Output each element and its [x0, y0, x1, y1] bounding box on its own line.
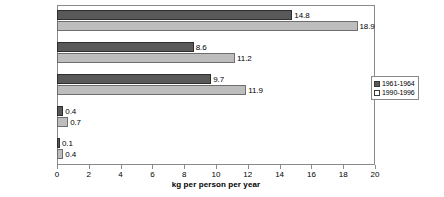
legend-label-series-0: 1961-1964: [382, 80, 415, 88]
x-tick-label: 18: [339, 170, 348, 179]
legend-item-series-0: 1961-1964: [374, 79, 415, 88]
bar-value-label: 8.6: [196, 43, 207, 52]
bar-group-series-1: 18.9: [57, 21, 375, 31]
bar-value-label: 9.7: [213, 75, 224, 84]
bar-chart: GREECE14.818.9SPAIN8.611.2ITALY9.711.9FR…: [0, 0, 444, 197]
x-tick-label: 10: [212, 170, 221, 179]
legend-label-series-1: 1990-1996: [382, 89, 415, 97]
bar-value-label: 11.9: [248, 86, 263, 95]
x-tick-label: 14: [275, 170, 284, 179]
x-tick-label: 12: [243, 170, 252, 179]
bar-value-label: 11.2: [237, 54, 252, 63]
category-row: USA0.10.4: [57, 133, 375, 165]
x-tick-mark: [152, 165, 153, 169]
x-tick-mark: [216, 165, 217, 169]
x-tick-mark: [121, 165, 122, 169]
bar: [57, 74, 211, 84]
x-tick-mark: [184, 165, 185, 169]
category-row: GREECE14.818.9: [57, 5, 375, 37]
bar-value-label: 0.1: [62, 139, 73, 148]
x-tick-mark: [343, 165, 344, 169]
bar: [57, 21, 358, 31]
bar-value-label: 18.9: [360, 22, 375, 31]
bar: [57, 138, 60, 148]
bar: [57, 117, 68, 127]
bar-group-series-0: 0.1: [57, 138, 73, 148]
x-tick-label: 20: [371, 170, 380, 179]
category-row: ITALY9.711.9: [57, 69, 375, 101]
legend-swatch-icon-series-1: [374, 90, 380, 96]
x-tick-label: 4: [118, 170, 122, 179]
bar-value-label: 0.4: [65, 150, 76, 159]
x-tick-mark: [89, 165, 90, 169]
x-axis: 02468101214161820: [57, 165, 375, 181]
bar-value-label: 0.7: [70, 118, 81, 127]
bar-value-label: 0.4: [65, 107, 76, 116]
bar: [57, 85, 246, 95]
x-tick-label: 6: [150, 170, 154, 179]
x-tick-mark: [57, 165, 58, 169]
bar-group-series-0: 0.4: [57, 106, 76, 116]
bar-group-series-1: 11.9: [57, 85, 263, 95]
bar: [57, 53, 235, 63]
bar-group-series-1: 0.7: [57, 117, 81, 127]
bar: [57, 10, 292, 20]
category-row: SPAIN8.611.2: [57, 37, 375, 69]
chart-legend: 1961-1964 1990-1996: [371, 76, 419, 100]
x-tick-label: 16: [307, 170, 316, 179]
legend-swatch-icon-series-0: [374, 81, 380, 87]
x-tick-mark: [248, 165, 249, 169]
bar-group-series-1: 11.2: [57, 53, 252, 63]
bar: [57, 149, 63, 159]
x-tick-mark: [280, 165, 281, 169]
x-tick-label: 2: [87, 170, 91, 179]
x-tick-mark: [375, 165, 376, 169]
bar-group-series-0: 8.6: [57, 42, 207, 52]
x-axis-title: kg per person per year: [57, 180, 375, 189]
bar: [57, 106, 63, 116]
bar-group-series-0: 14.8: [57, 10, 309, 20]
x-tick-label: 8: [182, 170, 186, 179]
legend-item-series-1: 1990-1996: [374, 88, 415, 97]
x-tick-mark: [311, 165, 312, 169]
bar: [57, 42, 194, 52]
bar-group-series-1: 0.4: [57, 149, 76, 159]
bar-group-series-0: 9.7: [57, 74, 224, 84]
bar-value-label: 14.8: [294, 11, 309, 20]
category-row: FRANCE0.40.7: [57, 101, 375, 133]
x-tick-label: 0: [55, 170, 59, 179]
